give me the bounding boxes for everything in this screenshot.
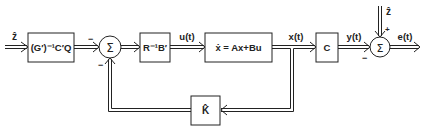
y-signal-label: y(t) [347,31,362,42]
sum1-bottom-sign: − [98,60,103,70]
sum1-top-sign: − [88,34,93,44]
precompensator-label: (G′)⁻¹C′Q [31,42,72,53]
sum2-plus-sign: + [385,25,390,34]
reference-arrow [375,6,385,37]
feedback-gain-label: K̂ [202,104,210,116]
u-signal-label: u(t) [179,31,194,42]
feedback-path [221,49,294,116]
output-matrix-label: C [324,42,331,53]
sum1-symbol: Σ [106,41,114,55]
arrow-to-gain [121,42,140,52]
input-label: ẑ [12,31,17,42]
y-signal-arrow [338,42,370,52]
error-signal-label: e(t) [398,31,413,42]
feedback-return-path [105,58,191,112]
plant-label: ẋ = Ax+Bu [215,42,261,53]
gain-label: R⁻¹B′ [143,42,168,53]
arrow-to-sum1 [74,42,99,52]
reference-label: ẑ [386,6,391,17]
error-output-arrow [390,42,420,52]
sum2-symbol: Σ [377,42,384,55]
input-arrow [5,42,28,52]
block-diagram: ẑ (G′)⁻¹C′Q − Σ − R⁻¹B′ u(t) ẋ = Ax+Bu x… [0,0,423,132]
x-signal-label: x(t) [289,31,304,42]
u-signal-arrow [170,42,205,52]
sum2-minus-sign: − [362,53,367,63]
